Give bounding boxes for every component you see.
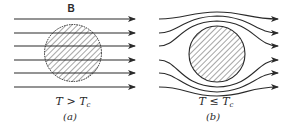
panel-tag-b: (b): [206, 111, 220, 122]
sample-circle-superconducting: [189, 26, 245, 82]
condition-label-a: T > Tc: [56, 95, 91, 109]
panel-tag-a: (a): [63, 111, 77, 122]
panel-a: [14, 19, 135, 87]
condition-label-b: T ≤ Tc: [199, 95, 234, 109]
meissner-effect-diagram: [0, 0, 292, 130]
panel-b: [159, 12, 278, 96]
field-label-b: B: [67, 3, 74, 14]
